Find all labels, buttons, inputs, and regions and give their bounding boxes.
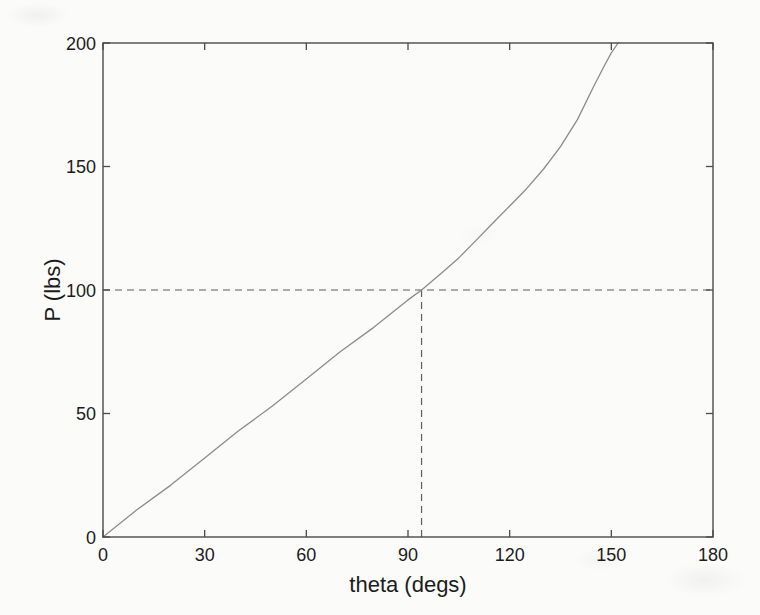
y-tick-label: 0 (86, 528, 96, 548)
plot-svg: 0306090120150180050100150200theta (degs)… (0, 0, 760, 615)
x-tick-label: 60 (296, 545, 316, 565)
line-chart: 0306090120150180050100150200theta (degs)… (0, 0, 760, 615)
x-tick-label: 180 (698, 545, 728, 565)
y-tick-label: 200 (66, 34, 96, 54)
x-axis-label: theta (degs) (349, 572, 466, 597)
y-tick-label: 150 (66, 157, 96, 177)
x-tick-label: 30 (195, 545, 215, 565)
x-tick-label: 90 (398, 545, 418, 565)
y-tick-label: 100 (66, 281, 96, 301)
y-axis-label: P (lbs) (40, 258, 65, 321)
x-tick-label: 0 (98, 545, 108, 565)
x-tick-label: 150 (596, 545, 626, 565)
y-tick-label: 50 (76, 404, 96, 424)
figure: 0306090120150180050100150200theta (degs)… (0, 0, 760, 615)
x-tick-label: 120 (495, 545, 525, 565)
